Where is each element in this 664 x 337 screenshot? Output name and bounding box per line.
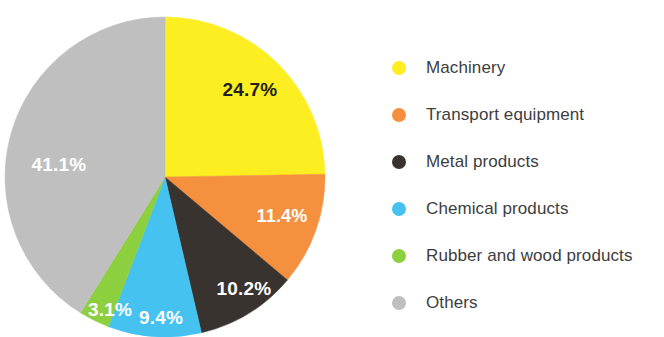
legend-item[interactable]: Machinery	[386, 44, 664, 91]
legend-item-label: Transport equipment	[426, 105, 584, 125]
legend-item-label: Metal products	[426, 152, 539, 172]
legend-item-label: Rubber and wood products	[426, 246, 633, 266]
legend-swatch-icon	[392, 155, 406, 169]
legend-item-label: Others	[426, 293, 478, 313]
legend-item[interactable]: Rubber and wood products	[386, 232, 664, 279]
pie-slice-group	[5, 17, 325, 337]
pie-chart: 24.7%11.4%10.2%9.4%3.1%41.1%	[0, 0, 390, 337]
legend-item[interactable]: Transport equipment	[386, 91, 664, 138]
pie-chart-page: 24.7%11.4%10.2%9.4%3.1%41.1% MachineryTr…	[0, 0, 664, 337]
legend-swatch-icon	[392, 249, 406, 263]
pie-slice[interactable]	[165, 17, 325, 177]
legend-swatch-icon	[392, 108, 406, 122]
legend-swatch-icon	[392, 296, 406, 310]
legend-item[interactable]: Metal products	[386, 138, 664, 185]
legend-item[interactable]: Others	[386, 279, 664, 326]
legend-item-label: Machinery	[426, 58, 505, 78]
legend-swatch-icon	[392, 61, 406, 75]
pie-chart-svg	[0, 0, 390, 337]
legend-swatch-icon	[392, 202, 406, 216]
legend: MachineryTransport equipmentMetal produc…	[386, 44, 664, 326]
legend-item[interactable]: Chemical products	[386, 185, 664, 232]
legend-item-label: Chemical products	[426, 199, 568, 219]
